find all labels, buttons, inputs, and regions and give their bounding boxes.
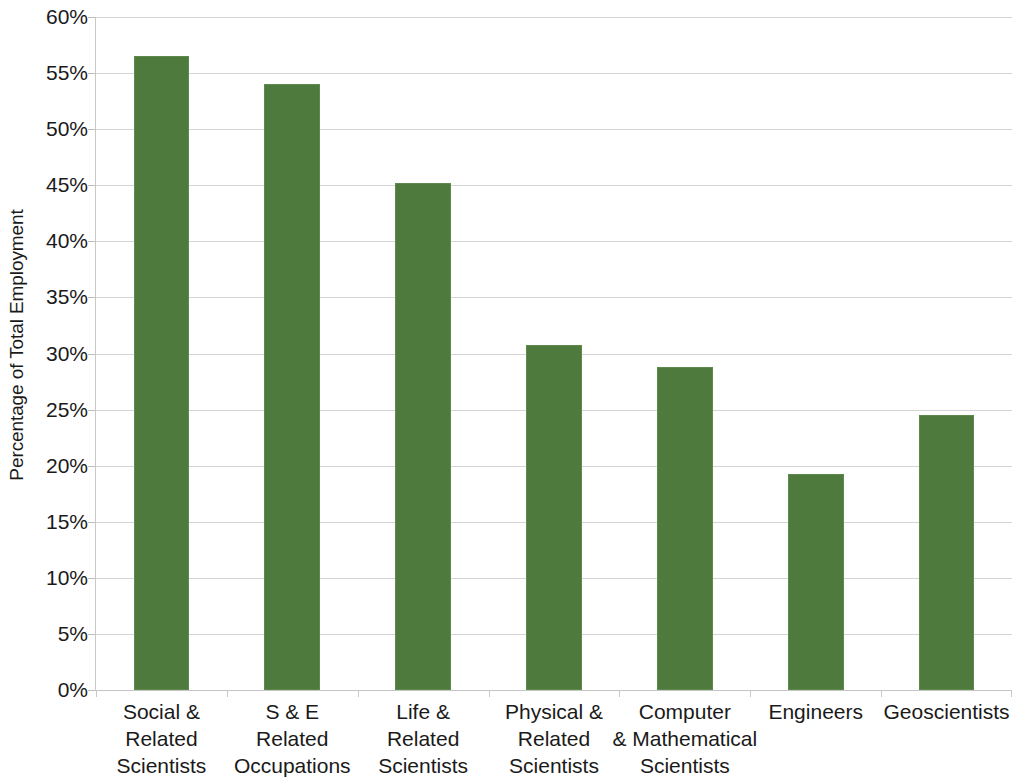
x-axis-category-label-line: Scientists [88,752,235,779]
x-axis-category-label: Geoscientists [873,698,1019,725]
x-axis-tickmark [619,690,620,697]
bar [395,183,451,690]
y-axis-tickmark [88,410,95,411]
x-axis-category-label-line: Related [88,725,235,752]
y-axis-tick-label: 15% [8,511,88,532]
y-axis-tickmark [88,354,95,355]
x-axis-tickmark [489,690,490,697]
x-axis-tickmark [96,690,97,697]
x-axis-category-label-line: Occupations [219,752,366,779]
y-axis-tickmark [88,690,95,691]
bars-layer [96,17,1012,690]
y-axis-tick-label: 60% [8,6,88,27]
x-axis-tickmarks [96,690,1012,698]
y-axis-tick-label: 5% [8,623,88,644]
x-axis-category-label: Computer& MathematicalScientists [611,698,758,779]
y-axis-tick-label: 20% [8,455,88,476]
x-axis-category-label-line: Geoscientists [873,698,1019,725]
y-axis-tickmark [88,634,95,635]
x-axis-category-label: Physical &RelatedScientists [481,698,628,779]
y-axis-tick-label: 35% [8,286,88,307]
x-axis-category-label-line: Related [481,725,628,752]
y-axis-tick-label: 25% [8,399,88,420]
x-axis-tickmark [358,690,359,697]
y-axis-tick-label: 10% [8,567,88,588]
y-axis-tickmark [88,17,95,18]
x-axis-category-label: Social &RelatedScientists [88,698,235,779]
x-axis-category-labels: Social &RelatedScientistsS & ERelatedOcc… [96,698,1019,781]
y-axis-tickmark [88,578,95,579]
x-axis-category-label-line: Physical & [481,698,628,725]
x-axis-category-label-line: Related [350,725,497,752]
x-axis-tickmark [750,690,751,697]
y-axis-tickmark [88,185,95,186]
y-axis-tick-label: 55% [8,62,88,83]
bar [657,367,713,690]
y-axis-tickmark [88,129,95,130]
x-axis-category-label: Engineers [742,698,889,725]
x-axis-category-label-line: & Mathematical [611,725,758,752]
x-axis-category-label-line: Related [219,725,366,752]
y-axis-tickmark [88,466,95,467]
y-axis-tickmark [88,522,95,523]
y-axis-tickmark [88,297,95,298]
bar [788,474,844,690]
x-axis-category-label: S & ERelatedOccupations [219,698,366,779]
x-axis-category-label-line: Engineers [742,698,889,725]
y-axis-tick-label: 0% [8,679,88,700]
x-axis-category-label-line: Scientists [611,752,758,779]
x-axis-category-label-line: Social & [88,698,235,725]
y-axis-tick-label: 40% [8,230,88,251]
y-axis-tickmark [88,241,95,242]
bar [919,415,975,690]
x-axis-tickmark [1011,690,1012,697]
x-axis-category-label-line: Computer [611,698,758,725]
x-axis-category-label-line: Life & [350,698,497,725]
bar-chart: Percentage of Total Employment 60%55%50%… [0,0,1019,781]
y-axis-tickmark [88,73,95,74]
bar [526,345,582,690]
bar [264,84,320,690]
y-axis-tick-label: 45% [8,174,88,195]
x-axis-category-label-line: S & E [219,698,366,725]
x-axis-tickmark [881,690,882,697]
bar [134,56,190,690]
y-axis-tick-label: 50% [8,118,88,139]
x-axis-category-label-line: Scientists [481,752,628,779]
x-axis-category-label-line: Scientists [350,752,497,779]
x-axis-tickmark [227,690,228,697]
x-axis-category-label: Life &RelatedScientists [350,698,497,779]
y-axis-tick-label: 30% [8,343,88,364]
y-axis-tick-labels: 60%55%50%45%40%35%30%25%20%15%10%5%0% [0,17,88,690]
